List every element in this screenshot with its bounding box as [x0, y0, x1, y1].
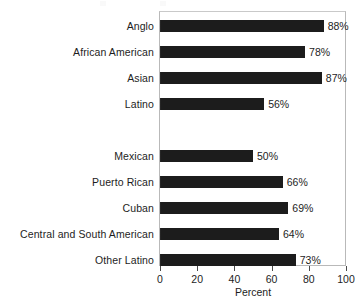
chart-row: Other Latino73%	[0, 247, 355, 273]
bar-chart: Anglo88%African American78%Asian87%Latin…	[0, 0, 355, 305]
category-label: Anglo	[127, 20, 154, 32]
bar-track: 56%	[160, 98, 346, 110]
category-label: Asian	[127, 72, 154, 84]
x-axis-tick-label: 60	[266, 273, 278, 285]
bar-value-label: 50%	[253, 150, 278, 162]
x-axis-tick	[346, 266, 347, 271]
chart-row: Anglo88%	[0, 13, 355, 39]
bar-value-label: 78%	[305, 46, 330, 58]
bar-value-label: 56%	[264, 98, 289, 110]
category-label: Central and South American	[20, 228, 154, 240]
bar-track: 50%	[160, 150, 346, 162]
bar-track: 66%	[160, 176, 346, 188]
bar	[160, 150, 253, 162]
category-label: African American	[73, 46, 154, 58]
scan-artifact	[100, 1, 250, 6]
bar-value-label: 66%	[283, 176, 308, 188]
bar-value-label: 88%	[324, 20, 349, 32]
chart-row: Cuban69%	[0, 195, 355, 221]
bar-track: 78%	[160, 46, 346, 58]
x-axis-tick-label: 80	[303, 273, 315, 285]
bar-track: 69%	[160, 202, 346, 214]
x-axis-tick-label: 20	[191, 273, 203, 285]
bar	[160, 176, 283, 188]
x-axis-tick	[234, 266, 235, 271]
category-label: Cuban	[123, 202, 154, 214]
x-axis-tick	[160, 266, 161, 271]
bar-track: 87%	[160, 72, 346, 84]
bar-track: 64%	[160, 228, 346, 240]
bar	[160, 20, 324, 32]
chart-row: Latino56%	[0, 91, 355, 117]
chart-row: Puerto Rican66%	[0, 169, 355, 195]
bar	[160, 46, 305, 58]
bar	[160, 254, 296, 266]
x-axis-tick	[197, 266, 198, 271]
bar-track: 73%	[160, 254, 346, 266]
chart-row-spacer	[0, 117, 355, 143]
bar	[160, 98, 264, 110]
x-axis-tick	[309, 266, 310, 271]
x-axis-tick-label: 100	[337, 273, 355, 285]
bar-track: 88%	[160, 20, 346, 32]
category-label: Latino	[125, 98, 154, 110]
bar-value-label: 87%	[322, 72, 347, 84]
bar-value-label: 73%	[296, 254, 321, 266]
chart-row: African American78%	[0, 39, 355, 65]
x-axis-tick-label: 0	[157, 273, 163, 285]
category-label: Mexican	[114, 150, 154, 162]
chart-row: Mexican50%	[0, 143, 355, 169]
bar	[160, 202, 288, 214]
chart-row: Central and South American64%	[0, 221, 355, 247]
x-axis: 020406080100	[160, 266, 346, 267]
x-axis-title: Percent	[160, 286, 346, 298]
x-axis-tick	[272, 266, 273, 271]
bar-value-label: 69%	[288, 202, 313, 214]
bar	[160, 72, 322, 84]
category-label: Puerto Rican	[92, 176, 154, 188]
category-label: Other Latino	[95, 254, 154, 266]
chart-row: Asian87%	[0, 65, 355, 91]
x-axis-tick-label: 40	[229, 273, 241, 285]
bar-value-label: 64%	[279, 228, 304, 240]
bar	[160, 228, 279, 240]
